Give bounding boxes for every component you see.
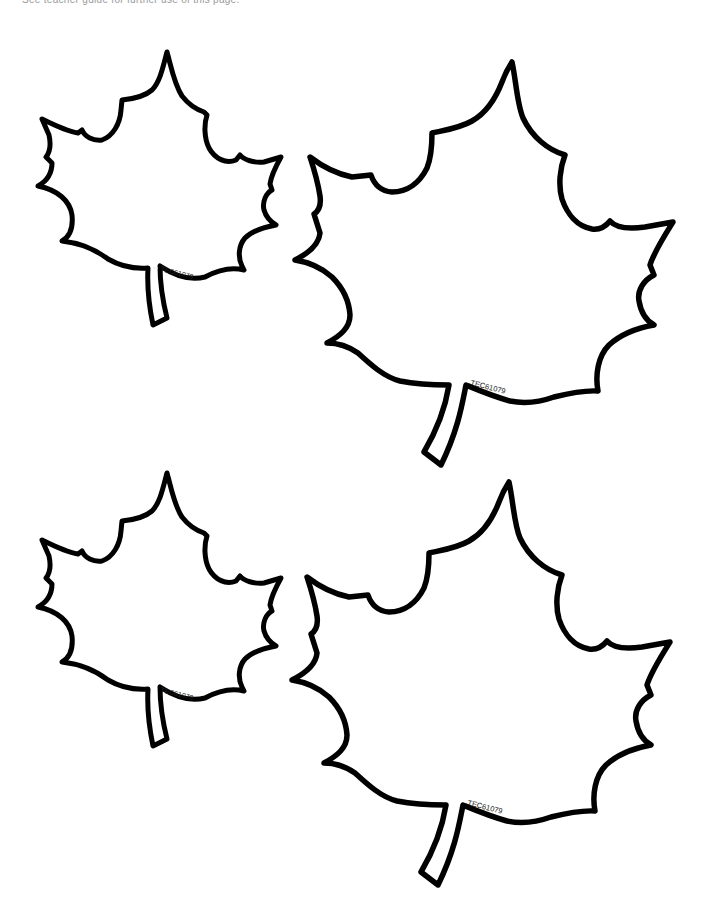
leaf-top-left: TEC61079 bbox=[38, 52, 281, 325]
leaf-bottom-left: TEC61079 bbox=[38, 473, 281, 746]
maple-leaf-outline bbox=[38, 52, 281, 325]
leaf-bottom-right: TEC61079 bbox=[292, 482, 670, 885]
leaf-template-sheet: TEC61079 TEC61079 TEC61079 TEC61079 bbox=[0, 0, 714, 915]
maple-leaf-outline bbox=[38, 473, 281, 746]
leaf-top-right: TEC61079 bbox=[295, 62, 673, 465]
maple-leaf-outline bbox=[295, 62, 673, 465]
maple-leaf-outline bbox=[292, 482, 670, 885]
